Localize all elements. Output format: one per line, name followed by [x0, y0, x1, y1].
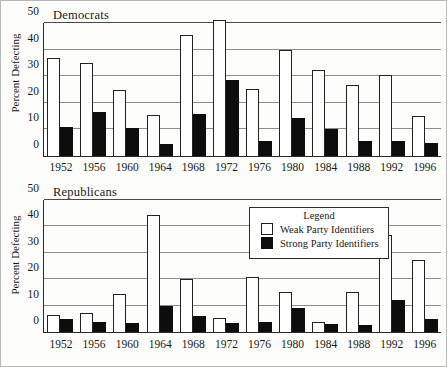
x-tick-label: 1996 [410, 161, 440, 173]
bar-group-1988 [346, 23, 372, 156]
bar-strong-1960 [126, 128, 139, 156]
bar-weak-1952 [47, 315, 60, 332]
x-tick-label: 1960 [112, 338, 142, 350]
bar-weak-1960 [113, 90, 126, 156]
y-tick-label: 40 [28, 32, 45, 44]
bar-weak-1976 [246, 89, 259, 156]
legend-label-weak: Weak Party Identifiers [280, 224, 374, 235]
y-tick-label: 10 [28, 288, 45, 300]
legend-row-weak: Weak Party Identifiers [261, 223, 388, 235]
x-tick-label: 1952 [46, 338, 76, 350]
bar-weak-1980 [279, 50, 292, 156]
y-tick-label: 20 [28, 85, 45, 97]
bar-weak-1984 [312, 322, 325, 332]
bar-weak-1972 [213, 318, 226, 332]
bar-weak-1988 [346, 292, 359, 332]
bar-weak-1988 [346, 85, 359, 156]
legend-label-strong: Strong Party Identifiers [280, 238, 379, 249]
bar-group-1992 [379, 23, 405, 156]
bar-weak-1968 [180, 35, 193, 156]
x-tick-label: 1988 [344, 161, 374, 173]
bar-group-1956 [80, 23, 106, 156]
bar-strong-1976 [259, 141, 272, 156]
x-tick-label: 1968 [178, 338, 208, 350]
bar-strong-1980 [292, 308, 305, 332]
bar-strong-1952 [60, 319, 73, 332]
x-tick-label: 1984 [311, 161, 341, 173]
bar-group-1960 [113, 23, 139, 156]
bar-group-1956 [80, 200, 106, 332]
bar-group-1984 [312, 23, 338, 156]
bar-group-1968 [180, 200, 206, 332]
bar-strong-1956 [93, 112, 106, 156]
bar-group-1996 [412, 23, 438, 156]
bar-group-1952 [47, 23, 73, 156]
democrats-plot-area: 01020304050 [43, 23, 441, 157]
bar-weak-1984 [312, 70, 325, 156]
republicans-panel: Republicans Percent Defecting 0102030405… [1, 183, 447, 365]
bar-strong-1984 [325, 324, 338, 332]
x-tick-label: 1992 [377, 161, 407, 173]
x-tick-label: 1956 [79, 338, 109, 350]
y-tick-label: 0 [33, 314, 44, 326]
x-tick-label: 1956 [79, 161, 109, 173]
bar-strong-1996 [425, 319, 438, 332]
democrats-x-ticks: 1952195619601964196819721976198019841988… [46, 161, 440, 173]
bar-group-1996 [412, 200, 438, 332]
bar-strong-1964 [160, 144, 173, 156]
bar-group-1972 [213, 200, 239, 332]
x-tick-label: 1988 [344, 338, 374, 350]
bar-strong-1964 [160, 306, 173, 332]
x-tick-label: 1964 [145, 338, 175, 350]
y-tick-label: 0 [33, 138, 44, 150]
bar-group-1980 [279, 23, 305, 156]
x-tick-label: 1952 [46, 161, 76, 173]
bar-weak-1996 [412, 260, 425, 332]
democrats-bars [47, 23, 438, 156]
bar-strong-1988 [359, 141, 372, 156]
bar-weak-1996 [412, 116, 425, 156]
bar-strong-1960 [126, 323, 139, 332]
bar-weak-1976 [246, 277, 259, 332]
legend-box: Legend Weak Party Identifiers Strong Par… [249, 207, 389, 259]
bar-weak-1972 [213, 20, 226, 156]
x-tick-label: 1972 [211, 338, 241, 350]
bar-weak-1968 [180, 279, 193, 332]
chart-page: Democrats Percent Defecting 01020304050 … [0, 0, 447, 367]
bar-weak-1980 [279, 292, 292, 332]
x-tick-label: 1984 [311, 338, 341, 350]
legend-swatch-weak-icon [261, 223, 273, 235]
bar-group-1960 [113, 200, 139, 332]
bar-strong-1984 [325, 129, 338, 156]
republicans-y-axis-label: Percent Defecting [9, 195, 21, 315]
bar-weak-1956 [80, 313, 93, 332]
y-tick-label: 30 [28, 235, 45, 247]
bar-weak-1956 [80, 63, 93, 156]
bar-group-1976 [246, 23, 272, 156]
x-tick-label: 1972 [211, 161, 241, 173]
bar-group-1972 [213, 23, 239, 156]
legend-title: Legend [250, 210, 388, 221]
x-tick-label: 1980 [278, 338, 308, 350]
republicans-x-ticks: 1952195619601964196819721976198019841988… [46, 338, 440, 350]
y-tick-label: 30 [28, 58, 45, 70]
bar-strong-1976 [259, 322, 272, 332]
x-tick-label: 1976 [244, 161, 274, 173]
x-tick-label: 1980 [278, 161, 308, 173]
legend-row-strong: Strong Party Identifiers [261, 237, 388, 249]
bar-group-1964 [147, 23, 173, 156]
bar-strong-1972 [226, 323, 239, 332]
legend-swatch-strong-icon [261, 237, 273, 249]
bar-weak-1964 [147, 115, 160, 156]
democrats-y-axis-label: Percent Defecting [9, 13, 21, 133]
y-tick-label: 50 [28, 182, 45, 194]
bar-weak-1964 [147, 215, 160, 332]
democrats-title: Democrats [53, 8, 109, 23]
bar-weak-1960 [113, 294, 126, 332]
y-tick-label: 50 [28, 5, 45, 17]
y-tick-label: 20 [28, 261, 45, 273]
bar-strong-1968 [193, 114, 206, 156]
bar-strong-1988 [359, 325, 372, 332]
bar-strong-1992 [392, 141, 405, 156]
bar-strong-1980 [292, 118, 305, 156]
